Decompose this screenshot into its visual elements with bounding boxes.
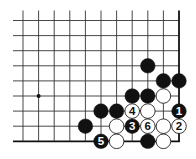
- white-stone-move-2: 2: [172, 119, 187, 134]
- board-grid: [13, 11, 180, 143]
- white-stone-move-4: 4: [125, 104, 140, 119]
- white-stone-icon: [156, 89, 171, 104]
- white-stone: [156, 89, 171, 104]
- black-stone-icon: [172, 74, 187, 89]
- white-stone: [156, 119, 171, 134]
- white-stone-icon: [156, 119, 171, 134]
- black-stone-icon: [78, 119, 93, 134]
- black-stone-icon: [156, 74, 171, 89]
- move-number-label: 1: [176, 105, 183, 117]
- black-stone-move-5: 5: [94, 134, 109, 149]
- black-stone-icon: [94, 104, 109, 119]
- white-stone: [156, 134, 171, 149]
- black-stone-icon: [141, 59, 156, 74]
- white-stone: [109, 134, 124, 149]
- move-number-label: 3: [129, 120, 135, 132]
- black-stone-icon: [141, 89, 156, 104]
- black-stone-icon: [141, 134, 156, 149]
- black-stone-icon: [125, 89, 140, 104]
- black-stone: [94, 104, 109, 119]
- white-stone: [141, 104, 156, 119]
- black-stone: [156, 74, 171, 89]
- black-stone: [172, 74, 187, 89]
- go-board: 413625: [0, 0, 196, 159]
- black-stone: [141, 89, 156, 104]
- white-stone: [109, 119, 124, 134]
- black-stone: [141, 59, 156, 74]
- white-stone-icon: [141, 104, 156, 119]
- white-stone-move-6: 6: [141, 119, 156, 134]
- black-stone: [78, 119, 93, 134]
- white-stone-icon: [109, 119, 124, 134]
- black-stone: [109, 104, 124, 119]
- white-stone-icon: [109, 134, 124, 149]
- black-stone-move-3: 3: [125, 119, 140, 134]
- move-number-label: 6: [145, 120, 151, 132]
- star-point-icon: [37, 94, 41, 98]
- white-stone-icon: [156, 134, 171, 149]
- black-stone: [125, 89, 140, 104]
- move-number-label: 2: [176, 120, 182, 132]
- black-stone-icon: [109, 104, 124, 119]
- black-stone: [141, 134, 156, 149]
- star-points: [37, 94, 41, 98]
- move-number-label: 5: [98, 135, 105, 147]
- move-number-label: 4: [129, 105, 136, 117]
- black-stone-move-1: 1: [172, 104, 187, 119]
